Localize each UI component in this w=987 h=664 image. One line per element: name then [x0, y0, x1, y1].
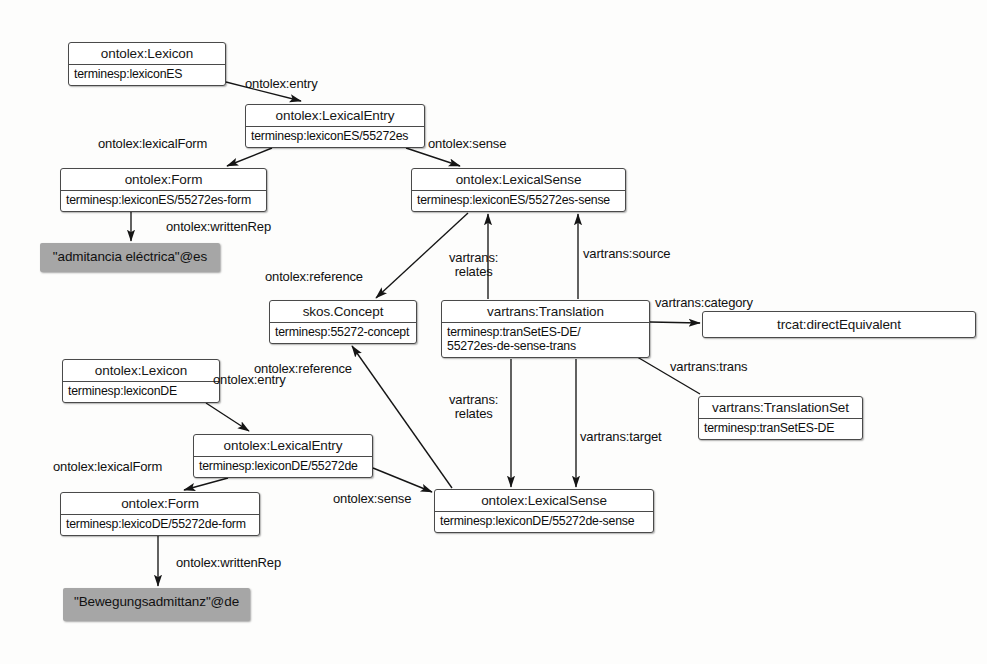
node-title: vartrans:TranslationSet — [699, 397, 862, 419]
node-title: ontolex:LexicalEntry — [246, 105, 424, 127]
edge-label-ontolex-sense-es: ontolex:sense — [428, 137, 506, 151]
node-title: skos.Concept — [270, 301, 416, 323]
node-title: ontolex:Lexicon — [69, 43, 225, 65]
edge-e-lexEntryDE-sense — [373, 468, 432, 492]
edge-e-translation-category — [650, 322, 700, 323]
edge-label-ontolex-reference-de: ontolex:reference — [254, 362, 352, 376]
node-body: terminesp:tranSetES-DE — [699, 419, 862, 439]
edge-label-vartrans-relates-top: vartrans: relates — [449, 251, 498, 279]
edge-label-ontolex-lexicalform-es: ontolex:lexicalForm — [98, 137, 207, 151]
node-body: terminesp:lexiconDE — [63, 382, 219, 402]
node-ontolex-lexicalsense-es[interactable]: ontolex:LexicalSense terminesp:lexiconES… — [411, 168, 626, 212]
edge-e-lexEntryDE-form — [184, 478, 228, 490]
edge-label-vartrans-target: vartrans:target — [580, 430, 662, 444]
node-title: ontolex:Form — [61, 493, 259, 515]
node-skos-concept[interactable]: skos.Concept terminesp:55272-concept — [269, 300, 417, 344]
node-literal-bewegungsadmittanz-de[interactable]: "Bewegungsadmittanz"@de — [63, 588, 250, 621]
edge-label-ontolex-sense-de: ontolex:sense — [333, 492, 411, 506]
node-title: trcat:directEquivalent — [703, 312, 975, 337]
diagram-canvas: ontolex:Lexicon terminesp:lexiconES onto… — [0, 0, 987, 664]
edge-e-lexiconDE-entry — [206, 403, 249, 431]
node-literal-admitancia-electrica-es[interactable]: "admitancia eléctrica"@es — [40, 243, 220, 272]
edge-label-vartrans-category: vartrans:category — [655, 296, 753, 310]
edge-e-lexEntryES-form — [227, 148, 272, 166]
node-body: terminesp:lexiconDE/55272de-sense — [435, 512, 653, 532]
node-body: terminesp:lexicoDE/55272de-form — [61, 515, 259, 535]
node-body: terminesp:lexiconES/55272es-sense — [412, 191, 625, 211]
node-body: terminesp:lexiconES — [69, 65, 225, 85]
node-title: ontolex:Lexicon — [63, 360, 219, 382]
node-title: ontolex:LexicalSense — [435, 490, 653, 512]
edge-label-vartrans-trans: vartrans:trans — [670, 360, 747, 374]
node-trcat-direct-equivalent[interactable]: trcat:directEquivalent — [702, 311, 976, 338]
node-body: terminesp:lexiconES/55272es — [246, 127, 424, 147]
node-ontolex-form-es[interactable]: ontolex:Form terminesp:lexiconES/55272es… — [60, 168, 267, 212]
edge-label-vartrans-relates-bottom: vartrans: relates — [449, 393, 498, 421]
node-body: terminesp:tranSetES-DE/ 55272es-de-sense… — [442, 323, 649, 357]
node-title: ontolex:LexicalEntry — [194, 435, 372, 457]
node-ontolex-lexicalentry-de[interactable]: ontolex:LexicalEntry terminesp:lexiconDE… — [193, 434, 373, 478]
node-ontolex-lexicon-es[interactable]: ontolex:Lexicon terminesp:lexiconES — [68, 42, 226, 86]
node-ontolex-lexicalsense-de[interactable]: ontolex:LexicalSense terminesp:lexiconDE… — [434, 489, 654, 533]
node-body: terminesp:lexiconES/55272es-form — [61, 191, 266, 211]
node-title: ontolex:LexicalSense — [412, 169, 625, 191]
edge-label-ontolex-lexicalform-de: ontolex:lexicalForm — [53, 460, 162, 474]
node-vartrans-translation[interactable]: vartrans:Translation terminesp:tranSetES… — [441, 300, 650, 358]
node-ontolex-lexicon-de[interactable]: ontolex:Lexicon terminesp:lexiconDE — [62, 359, 220, 403]
edge-label-vartrans-source: vartrans:source — [583, 247, 670, 261]
edge-label-ontolex-writtenrep-de: ontolex:writtenRep — [176, 556, 281, 570]
node-title: ontolex:Form — [61, 169, 266, 191]
node-ontolex-lexicalentry-es[interactable]: ontolex:LexicalEntry terminesp:lexiconES… — [245, 104, 425, 148]
edge-label-ontolex-entry-es: ontolex:entry — [245, 77, 317, 91]
edge-label-ontolex-reference-es: ontolex:reference — [265, 270, 363, 284]
node-title: "admitancia eléctrica"@es — [40, 243, 220, 270]
node-body: terminesp:55272-concept — [270, 323, 416, 343]
node-title: vartrans:Translation — [442, 301, 649, 323]
node-title: "Bewegungsadmittanz"@de — [63, 588, 250, 615]
node-body: terminesp:lexiconDE/55272de — [194, 457, 372, 477]
edge-label-ontolex-writtenrep-es: ontolex:writtenRep — [166, 220, 271, 234]
node-ontolex-form-de[interactable]: ontolex:Form terminesp:lexicoDE/55272de-… — [60, 492, 260, 536]
node-vartrans-translationset[interactable]: vartrans:TranslationSet terminesp:tranSe… — [698, 396, 863, 440]
